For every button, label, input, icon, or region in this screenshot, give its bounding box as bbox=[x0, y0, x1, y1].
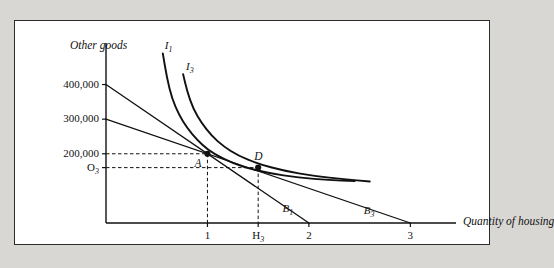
data-series-group bbox=[106, 53, 410, 223]
data-point-label-D: D bbox=[254, 151, 262, 163]
axes-group bbox=[106, 43, 456, 223]
x-tick-label-3: 3 bbox=[408, 230, 414, 241]
chart-canvas bbox=[15, 21, 491, 246]
series-label-B3: B3 bbox=[364, 205, 375, 219]
x-tick-label-1: 1 bbox=[205, 230, 211, 241]
y-tick-label-300,000: 300,000 bbox=[63, 113, 99, 124]
figure-frame: 1H323400,000300,000200,000O3B1B3I1I3AD O… bbox=[14, 20, 490, 245]
data-point-A bbox=[204, 151, 210, 157]
y-tick-label-200,000: 200,000 bbox=[63, 148, 99, 159]
y-axis-title: Other goods bbox=[70, 40, 127, 52]
series-label-I3: I3 bbox=[186, 61, 194, 75]
x-axis-title: Quantity of housing bbox=[463, 216, 554, 228]
x-tick-label-2: 2 bbox=[306, 230, 312, 241]
series-label-B1: B1 bbox=[282, 203, 293, 217]
data-point-D bbox=[255, 165, 261, 171]
series-I3 bbox=[183, 74, 370, 181]
series-label-I1: I1 bbox=[165, 40, 173, 54]
data-point-label-A: A bbox=[194, 158, 201, 170]
y-tick-label-400,000: 400,000 bbox=[63, 79, 99, 90]
y-tick-label-O: O3 bbox=[87, 162, 99, 176]
x-tick-label-H: H3 bbox=[252, 230, 264, 244]
